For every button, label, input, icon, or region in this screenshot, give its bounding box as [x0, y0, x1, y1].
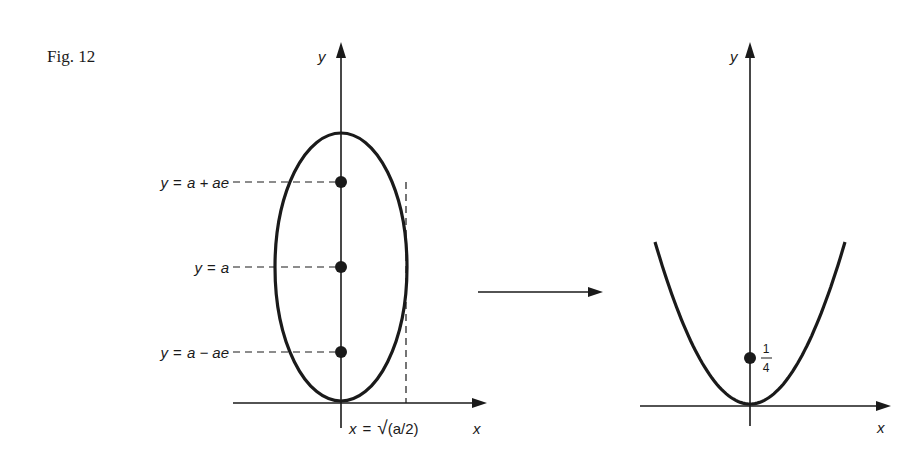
right-x-axis-label: x	[876, 419, 885, 436]
point-a-plus-ae: y=a + ae	[160, 174, 347, 191]
fraction-label: 1 4	[761, 342, 772, 375]
right-panel: y x 1 4	[640, 42, 891, 436]
right-x-axis-arrow-icon	[876, 401, 891, 411]
figure-caption: Fig. 12	[47, 47, 95, 66]
point-a-minus-ae: y=a − ae	[160, 344, 347, 361]
focus-point-dot	[744, 352, 756, 364]
fraction-numerator: 1	[763, 342, 770, 356]
point-label: y=a	[193, 259, 229, 276]
point-dot	[335, 176, 347, 188]
right-y-axis-label: y	[729, 48, 739, 65]
left-x-axis-arrow-icon	[472, 398, 487, 408]
left-y-axis-label: y	[317, 48, 327, 65]
transform-arrow	[478, 287, 603, 297]
fraction-denominator: 4	[763, 361, 770, 375]
point-label: y=a − ae	[160, 344, 229, 361]
vertical-line-label: x=√(a/2)	[348, 417, 419, 438]
point-a: y=a	[193, 259, 347, 276]
point-dot	[335, 346, 347, 358]
left-x-axis-label: x	[472, 420, 481, 437]
figure: Fig. 12 y x y=a + ae y=a	[0, 0, 921, 451]
right-y-axis-arrow-icon	[745, 42, 755, 58]
point-dot	[335, 261, 347, 273]
point-label: y=a + ae	[160, 174, 229, 191]
left-panel: y x y=a + ae y=a y=a − ae	[160, 42, 487, 438]
arrow-right-icon	[588, 287, 603, 297]
left-y-axis-arrow-icon	[336, 42, 346, 58]
